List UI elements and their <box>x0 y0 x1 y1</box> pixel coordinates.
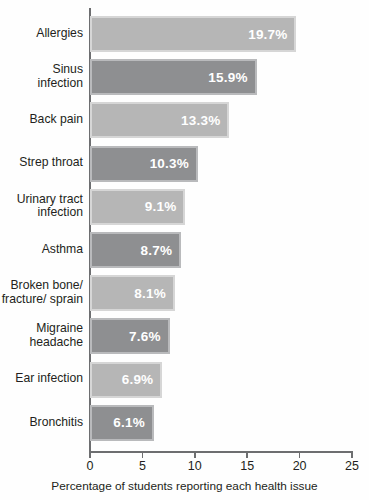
horizontal-bar-chart: Allergies19.7%Sinus infection15.9%Back p… <box>0 0 369 500</box>
bar-value-label: 6.9% <box>122 372 161 387</box>
x-axis-line <box>89 451 353 453</box>
category-label: Migraine headache <box>0 322 83 349</box>
x-tick-label: 0 <box>87 459 94 473</box>
x-tick <box>89 452 91 458</box>
bar-value-label: 13.3% <box>181 113 227 128</box>
bar-value-label: 19.7% <box>248 27 294 42</box>
bar-value-label: 15.9% <box>208 70 254 85</box>
category-label: Urinary tract infection <box>0 193 83 220</box>
category-label: Asthma <box>0 243 83 257</box>
bar[interactable]: 7.6% <box>90 318 170 354</box>
x-tick <box>246 452 248 458</box>
bar[interactable]: 6.9% <box>90 362 162 398</box>
x-tick-label: 10 <box>188 459 202 473</box>
bar[interactable]: 13.3% <box>90 102 229 138</box>
bar-value-label: 8.1% <box>134 286 173 301</box>
bar[interactable]: 10.3% <box>90 146 198 182</box>
bar-value-label: 9.1% <box>145 199 184 214</box>
x-tick-label: 20 <box>293 459 307 473</box>
bar-value-label: 7.6% <box>129 329 168 344</box>
x-tick-label: 25 <box>345 459 359 473</box>
x-tick <box>351 452 353 458</box>
x-axis-title: Percentage of students reporting each he… <box>0 479 369 493</box>
bar-value-label: 8.7% <box>141 243 180 258</box>
category-label: Strep throat <box>0 156 83 170</box>
bar-value-label: 10.3% <box>150 156 196 171</box>
category-label: Back pain <box>0 113 83 127</box>
category-label: Bronchitis <box>0 416 83 430</box>
bar[interactable]: 9.1% <box>90 189 185 225</box>
bar[interactable]: 19.7% <box>90 16 296 52</box>
x-tick <box>194 452 196 458</box>
category-label: Broken bone/ fracture/ sprain <box>0 279 83 306</box>
bar[interactable]: 8.1% <box>90 275 175 311</box>
bar[interactable]: 6.1% <box>90 405 154 441</box>
x-tick-label: 5 <box>139 459 146 473</box>
category-label: Sinus infection <box>0 63 83 90</box>
x-tick <box>142 452 144 458</box>
bar[interactable]: 8.7% <box>90 232 181 268</box>
x-tick-label: 15 <box>240 459 254 473</box>
category-label: Ear infection <box>0 372 83 386</box>
bar-value-label: 6.1% <box>113 415 152 430</box>
category-label: Allergies <box>0 27 83 41</box>
x-tick <box>299 452 301 458</box>
bar[interactable]: 15.9% <box>90 59 257 95</box>
